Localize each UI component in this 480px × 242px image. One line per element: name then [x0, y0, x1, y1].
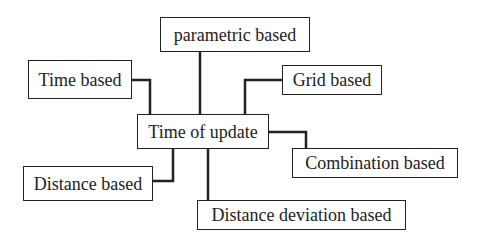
- node-label: Distance based: [34, 175, 142, 193]
- node-time-based: Time based: [28, 60, 132, 99]
- node-label: Grid based: [293, 71, 371, 89]
- node-distance-based: Distance based: [23, 166, 153, 201]
- node-label: Combination based: [305, 154, 444, 172]
- connector-distance: [152, 148, 173, 181]
- node-label: Time based: [39, 71, 122, 89]
- node-combination-based: Combination based: [292, 148, 458, 178]
- node-time-of-update: Time of update: [137, 114, 269, 149]
- center-label: Time of update: [148, 123, 257, 141]
- node-distance-deviation-based: Distance deviation based: [197, 200, 406, 230]
- node-label: parametric based: [174, 26, 296, 44]
- connector-combination: [268, 132, 306, 148]
- node-label: Distance deviation based: [212, 206, 392, 224]
- connector-grid: [245, 80, 282, 114]
- node-parametric-based: parametric based: [160, 17, 310, 52]
- connector-time: [131, 80, 150, 114]
- node-grid-based: Grid based: [282, 65, 382, 95]
